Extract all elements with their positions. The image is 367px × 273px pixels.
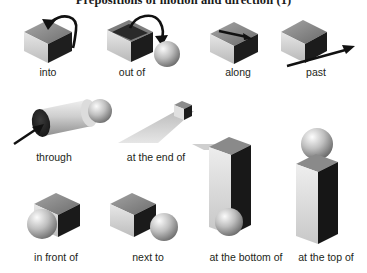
page-title: Prepositions of motion and direction (1) — [0, 0, 367, 8]
sphere-shape — [215, 208, 243, 236]
label-at-the-top-of: at the top of — [284, 251, 367, 263]
column-shape — [296, 154, 338, 244]
illustration-out-of — [104, 12, 204, 68]
tube-shape — [30, 98, 100, 139]
illustration-into — [18, 14, 114, 66]
label-at-the-end-of: at the end of — [106, 151, 206, 163]
illustration-past — [277, 16, 367, 68]
label-in-front-of: in front of — [8, 251, 104, 263]
label-into: into — [0, 66, 96, 78]
illustration-in-front-of — [24, 190, 110, 248]
arrow-through-icon — [14, 128, 38, 144]
cube-shape — [210, 22, 258, 64]
illustration-through — [12, 92, 124, 150]
sphere-shape — [154, 41, 180, 67]
label-through: through — [6, 151, 102, 163]
illustration-at-the-bottom-of — [203, 133, 283, 245]
label-past: past — [268, 66, 364, 78]
worksheet-page: Prepositions of motion and direction (1) — [0, 0, 367, 273]
illustration-at-the-top-of — [290, 126, 367, 246]
label-next-to: next to — [104, 251, 192, 263]
cube-shape — [110, 193, 156, 237]
illustration-next-to — [106, 190, 196, 248]
label-out-of: out of — [84, 66, 180, 78]
sphere-shape — [150, 213, 178, 241]
sphere-shape — [88, 99, 112, 123]
label-at-the-bottom-of: at the bottom of — [196, 251, 296, 263]
sphere-shape — [27, 209, 57, 239]
illustration-along — [205, 18, 285, 66]
